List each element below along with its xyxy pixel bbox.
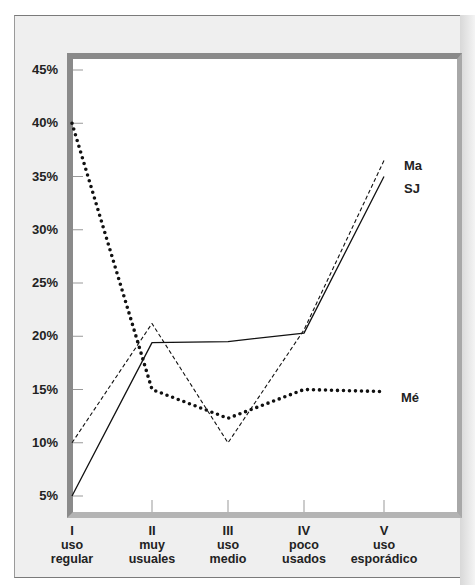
series-line-sj xyxy=(72,177,384,497)
series-line-ma xyxy=(72,161,384,443)
series-line-mé xyxy=(72,123,384,418)
line-chart xyxy=(0,0,475,585)
